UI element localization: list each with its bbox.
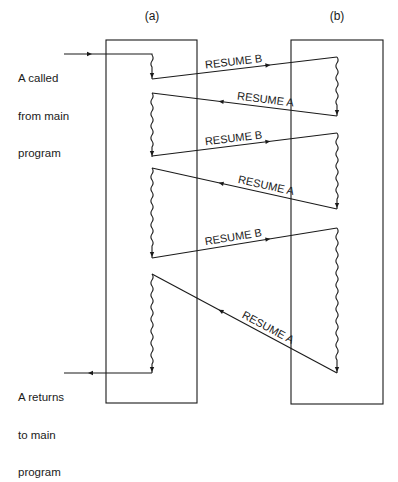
resume-label-3: RESUME B [204, 128, 263, 147]
exit-line-3: program [18, 466, 64, 479]
down-arrow-icon [150, 252, 154, 257]
down-arrow-icon [150, 367, 154, 372]
column-label-b: (b) [330, 9, 345, 23]
execution-trace-a-2 [151, 93, 153, 157]
down-arrow-icon [150, 73, 154, 78]
left-arrow-icon [219, 182, 224, 186]
execution-traces [150, 55, 339, 373]
exit-line-1: A returns [18, 391, 64, 404]
execution-trace-a-4 [151, 274, 153, 373]
execution-trace-a-3 [151, 168, 153, 258]
resume-transfers: RESUME BRESUME ARESUME BRESUME ARESUME B… [152, 52, 337, 373]
exit-label: A returns to main program [18, 366, 64, 482]
resume-label-5: RESUME B [204, 226, 263, 247]
resume-label-1: RESUME B [204, 52, 262, 71]
entry-line-3: program [18, 147, 69, 160]
coroutine-box-a [106, 40, 197, 403]
right-arrow-icon [265, 237, 270, 241]
exit-line-2: to main [18, 429, 64, 442]
resume-label-6: RESUME A [240, 308, 296, 346]
main-program-arrows [64, 52, 152, 375]
down-arrow-icon [335, 367, 339, 372]
entry-arrow-line [64, 54, 152, 55]
down-arrow-icon [150, 151, 154, 156]
resume-line-6 [152, 274, 337, 373]
left-arrow-icon [88, 371, 93, 375]
right-arrow-icon [87, 52, 92, 56]
down-arrow-icon [335, 110, 339, 115]
execution-trace-b-1 [336, 57, 338, 116]
entry-line-2: from main [18, 110, 69, 123]
execution-trace-b-2 [336, 133, 338, 209]
coroutine-box-b [291, 40, 383, 404]
column-label-a: (a) [145, 9, 160, 23]
entry-line-1: A called [18, 72, 69, 85]
entry-label: A called from main program [18, 47, 69, 172]
execution-trace-b-3 [336, 228, 338, 373]
down-arrow-icon [335, 203, 339, 208]
resume-label-2: RESUME A [237, 90, 296, 109]
